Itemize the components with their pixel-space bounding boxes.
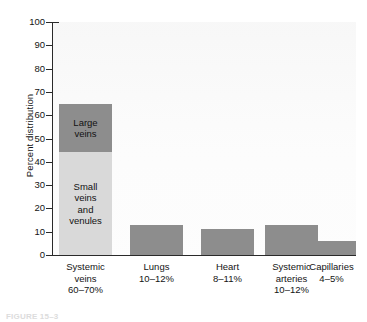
y-ticklabel-0: 0: [15, 250, 45, 260]
x-axis-line: [52, 255, 356, 256]
bar-segment-small-veins: Small veins and venules: [59, 152, 112, 255]
bar-segment-small-veins-label: Small veins and venules: [59, 181, 112, 227]
figure-caption: FIGURE 15–3: [6, 312, 58, 321]
bar-heart: [201, 229, 254, 255]
x-category-heart-name: Heart: [192, 261, 263, 273]
y-axis-top-cap: [52, 22, 59, 23]
bar-segment-large-veins: Large veins: [59, 104, 112, 153]
x-category-lungs-range: 10–12%: [121, 273, 192, 285]
x-category-heart-range: 8–11%: [192, 273, 263, 285]
y-ticklabel-30: 30: [15, 180, 45, 190]
y-axis-line: [52, 22, 53, 256]
y-tick-0: [46, 255, 52, 256]
y-tick-10: [46, 232, 52, 233]
bar-systemic-veins: Small veins and venules Large veins: [59, 104, 112, 256]
bar-segment-large-veins-label: Large veins: [59, 116, 112, 139]
y-tick-60: [46, 115, 52, 116]
y-ticklabel-40: 40: [15, 157, 45, 167]
x-category-systemic-veins: Systemic veins 60–70%: [50, 261, 121, 296]
bar-segment-lungs: [130, 225, 183, 255]
y-ticklabel-20: 20: [15, 203, 45, 213]
x-category-systemic-veins-name: Systemic veins: [50, 261, 121, 284]
x-category-lungs-name: Lungs: [121, 261, 192, 273]
y-ticklabel-50: 50: [15, 134, 45, 144]
y-tick-30: [46, 185, 52, 186]
x-category-heart: Heart 8–11%: [192, 261, 263, 284]
y-ticklabel-70: 70: [15, 87, 45, 97]
bar-lungs: [130, 225, 183, 255]
y-tick-50: [46, 139, 52, 140]
x-category-capillaries: Capillaries 4–5%: [296, 261, 367, 284]
bar-segment-capillaries: [308, 241, 356, 255]
chart-figure: Percent distribution 100 90 80 70 60 50 …: [0, 0, 367, 322]
x-category-systemic-veins-range: 60–70%: [50, 284, 121, 296]
y-tick-100: [46, 22, 52, 23]
y-ticklabel-90: 90: [15, 40, 45, 50]
x-category-lungs: Lungs 10–12%: [121, 261, 192, 284]
x-category-systemic-arteries-range: 10–12%: [256, 284, 327, 296]
x-category-capillaries-range: 4–5%: [296, 273, 367, 285]
y-tick-90: [46, 45, 52, 46]
y-tick-70: [46, 92, 52, 93]
y-tick-20: [46, 208, 52, 209]
y-ticklabel-10: 10: [15, 227, 45, 237]
bar-capillaries: [308, 241, 356, 255]
x-category-capillaries-name: Capillaries: [296, 261, 367, 273]
y-tick-40: [46, 162, 52, 163]
bar-segment-heart: [201, 229, 254, 255]
y-tick-80: [46, 69, 52, 70]
y-ticklabel-60: 60: [15, 110, 45, 120]
y-ticklabel-80: 80: [15, 64, 45, 74]
y-ticklabel-100: 100: [15, 17, 45, 27]
